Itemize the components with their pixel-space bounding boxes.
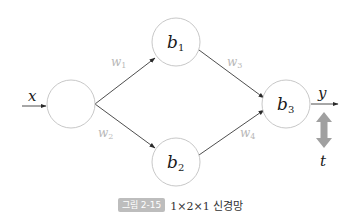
- figure-caption: 그림 2-15 1×2×1 신경망: [118, 197, 243, 213]
- weight-label-w2: w2: [98, 126, 113, 141]
- target-label-t: t: [320, 152, 327, 170]
- weight-label-w4: w4: [240, 126, 255, 141]
- node-input: [47, 80, 95, 128]
- node-b3: b3: [262, 80, 310, 128]
- weight-label-w3: w3: [227, 55, 242, 70]
- output-label-y: y: [317, 84, 327, 102]
- figure-number-badge: 그림 2-15: [118, 198, 165, 212]
- neural-network-diagram: x w1 w2 w3 w4 b1 b2: [0, 0, 355, 195]
- input-label-x: x: [28, 87, 37, 105]
- node-b2: b2: [152, 138, 200, 186]
- double-arrow-icon: [316, 112, 332, 148]
- weight-label-w1: w1: [111, 55, 126, 70]
- figure-caption-text: 1×2×1 신경망: [170, 197, 243, 213]
- node-b1: b1: [152, 18, 200, 66]
